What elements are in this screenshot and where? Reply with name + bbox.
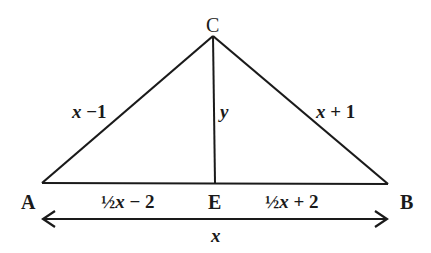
point-label-e: E — [208, 191, 221, 213]
point-label-b: B — [400, 191, 413, 213]
side-bc — [213, 36, 388, 184]
segment-label-bc: x + 1 — [315, 101, 355, 122]
side-ab — [42, 183, 388, 184]
segment-label-ab: x — [210, 225, 221, 246]
segment-label-eb: ½x + 2 — [265, 191, 319, 212]
altitude-ce — [213, 36, 215, 183]
segment-label-ce: y — [218, 101, 229, 122]
point-label-a: A — [21, 191, 36, 213]
segment-label-ac: x −1 — [71, 101, 107, 122]
side-ac — [42, 36, 213, 183]
point-label-c: C — [206, 14, 219, 36]
triangle-diagram: C A E B x −1 x + 1 y ½x − 2 ½x + 2 x — [0, 0, 431, 253]
segment-label-ae: ½x − 2 — [101, 191, 155, 212]
